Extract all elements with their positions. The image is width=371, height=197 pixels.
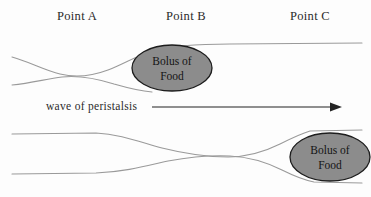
peristalsis-diagram: Point A Point B Point C wave of peristal… — [0, 0, 371, 197]
bolus-bottom-line2: Food — [318, 159, 342, 171]
bolus-bottom-shape — [290, 133, 370, 181]
upper-tube-bottom-wall — [12, 76, 152, 92]
bolus-top-line2: Food — [160, 70, 184, 82]
arrow-head-icon — [330, 103, 342, 112]
bolus-top-line1: Bolus of — [152, 55, 191, 67]
bolus-top-shape — [132, 45, 212, 91]
bolus-bottom: Bolus of Food — [290, 133, 370, 181]
bolus-bottom-line1: Bolus of — [310, 144, 349, 156]
peristalsis-arrow — [152, 103, 342, 112]
bolus-top: Bolus of Food — [132, 45, 212, 91]
diagram-canvas: Bolus of Food Bolus of Food — [0, 0, 371, 197]
